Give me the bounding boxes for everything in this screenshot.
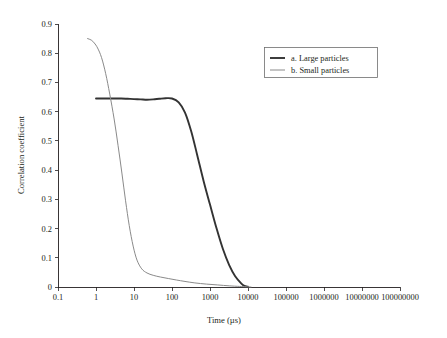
x-axis-title: Time (µs) — [207, 315, 241, 325]
y-axis-ticks — [55, 24, 59, 287]
y-tick-label: 0.1 — [42, 254, 52, 263]
y-axis-tick-labels: 00.10.20.30.40.50.60.70.80.9 — [42, 20, 53, 292]
y-tick-label: 0.6 — [42, 108, 52, 117]
y-tick-label: 0.2 — [42, 225, 52, 234]
y-tick-label: 0.4 — [42, 166, 53, 175]
y-tick-label: 0.7 — [42, 78, 52, 87]
x-tick-label: 0.1 — [53, 293, 63, 302]
x-tick-label: 1000 — [202, 293, 219, 302]
y-tick-label: 0 — [48, 283, 52, 292]
legend-label-large-particles: a. Large particles — [291, 54, 349, 63]
x-tick-label: 100000 — [273, 293, 298, 302]
x-tick-label: 100 — [166, 293, 179, 302]
x-axis-tick-labels: 0.11101001000100001000001000000100000001… — [53, 293, 419, 302]
y-tick-label: 0.3 — [42, 195, 52, 204]
y-axis-title: Correlation coefficient — [16, 115, 26, 193]
y-tick-label: 0.9 — [42, 20, 52, 29]
chart-series-group — [88, 39, 251, 287]
chart-svg: 0.11101001000100001000001000000100000001… — [0, 0, 447, 338]
x-tick-label: 1 — [94, 293, 98, 302]
y-tick-label: 0.8 — [42, 49, 52, 58]
series-line-large-particles — [96, 98, 248, 287]
x-tick-label: 100000000 — [381, 293, 419, 302]
chart-figure: 0.11101001000100001000001000000100000001… — [0, 0, 447, 338]
series-line-small-particles — [88, 39, 251, 287]
x-tick-label: 10 — [130, 293, 138, 302]
x-tick-label: 10000000 — [345, 293, 379, 302]
legend-label-small-particles: b. Small particles — [291, 66, 349, 75]
x-axis-ticks — [58, 287, 400, 291]
x-tick-label: 10000 — [238, 293, 259, 302]
x-tick-label: 1000000 — [309, 293, 338, 302]
y-tick-label: 0.5 — [42, 137, 52, 146]
chart-legend: a. Large particles b. Small particles — [265, 48, 378, 78]
